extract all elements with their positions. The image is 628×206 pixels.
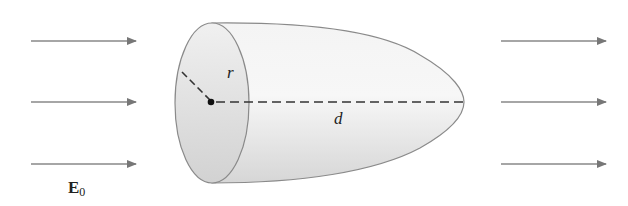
center-point-icon	[208, 99, 215, 106]
diagram-canvas	[0, 0, 628, 206]
field-label-main: E	[68, 178, 79, 197]
field-label: E0	[68, 178, 85, 200]
incident-field-arrows	[31, 41, 136, 164]
length-label: d	[334, 109, 343, 129]
field-label-subscript: 0	[79, 185, 85, 199]
radius-label: r	[227, 63, 234, 83]
transmitted-field-arrows	[501, 41, 606, 164]
bullet-conductor	[175, 23, 464, 183]
bullet-body-shape	[212, 23, 464, 183]
